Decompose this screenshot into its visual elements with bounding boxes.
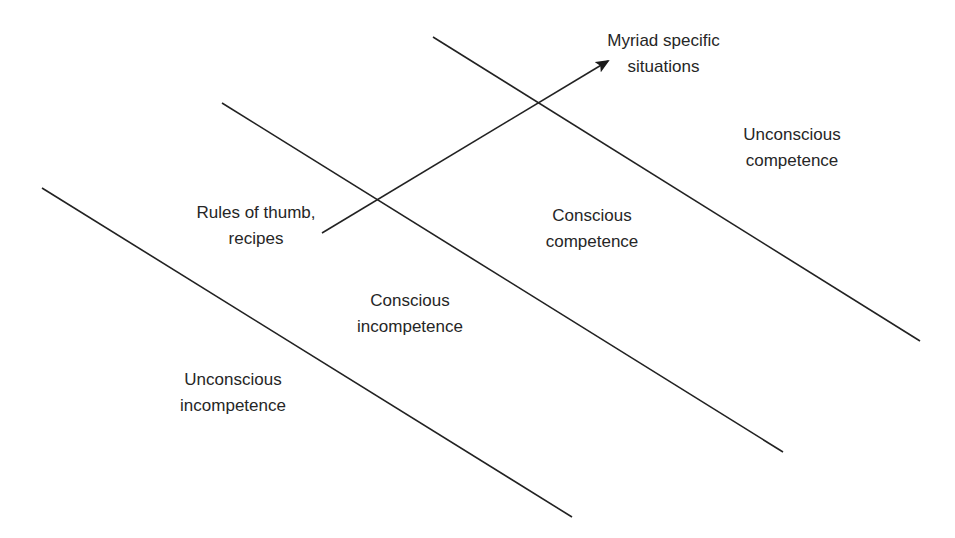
boundary-line-3 bbox=[433, 37, 920, 341]
label-conscious-competence: Conscious competence bbox=[527, 203, 657, 255]
label-conscious-incompetence: Conscious incompetence bbox=[340, 288, 480, 340]
label-unconscious-incompetence: Unconscious incompetence bbox=[163, 367, 303, 419]
competence-diagram bbox=[0, 0, 955, 538]
boundary-line-2 bbox=[222, 103, 783, 452]
label-myriad-situations: Myriad specific situations bbox=[591, 28, 736, 80]
label-rules-of-thumb: Rules of thumb, recipes bbox=[176, 200, 336, 252]
label-line: Myriad specific bbox=[591, 28, 736, 54]
label-line: Conscious bbox=[527, 203, 657, 229]
label-line: competence bbox=[727, 148, 857, 174]
label-line: recipes bbox=[176, 226, 336, 252]
label-line: situations bbox=[591, 54, 736, 80]
label-line: incompetence bbox=[163, 393, 303, 419]
label-line: competence bbox=[527, 229, 657, 255]
label-line: Unconscious bbox=[163, 367, 303, 393]
label-unconscious-competence: Unconscious competence bbox=[727, 122, 857, 174]
label-line: Rules of thumb, bbox=[176, 200, 336, 226]
label-line: Unconscious bbox=[727, 122, 857, 148]
label-line: incompetence bbox=[340, 314, 480, 340]
label-line: Conscious bbox=[340, 288, 480, 314]
